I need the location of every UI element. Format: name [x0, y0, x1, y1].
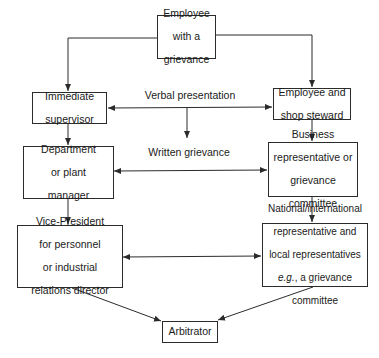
- node-text-line: National/international: [268, 203, 362, 215]
- node-text-line: or plant: [41, 167, 96, 179]
- node-text-line: supervisor: [45, 114, 94, 126]
- node-arbitrator: Arbitrator: [162, 321, 218, 343]
- node-employee-with-grievance: Employee with a grievance: [157, 15, 216, 59]
- node-text-line: e.g., a grievance: [268, 272, 362, 284]
- node-text-line: with a: [163, 31, 210, 43]
- edge-department-business: [114, 170, 267, 171]
- node-immediate-supervisor: Immediate supervisor: [32, 92, 107, 124]
- node-text-line: committee: [268, 295, 362, 307]
- label-written-grievance: Written grievance: [148, 146, 230, 158]
- node-employee-and-shop-steward: Employee and shop steward: [273, 88, 351, 120]
- node-business-representative: Business representative or grievance com…: [268, 142, 358, 197]
- node-text-line: Department: [41, 144, 96, 156]
- node-text-line: Employee and: [278, 87, 345, 99]
- node-text-line: Arbitrator: [168, 326, 211, 338]
- edge-vice-president-national: [123, 256, 261, 257]
- node-department-or-plant-manager: Department or plant manager: [23, 146, 114, 199]
- node-text-line: relations director: [31, 285, 109, 297]
- node-text-line: grievance: [163, 54, 210, 66]
- node-text-line: manager: [41, 190, 96, 202]
- node-text-line: Immediate: [45, 91, 94, 103]
- node-text-line: for personnel: [31, 239, 109, 251]
- node-text-line: Business: [274, 129, 353, 141]
- label-verbal-presentation: Verbal presentation: [145, 89, 235, 101]
- node-text-line: Employee: [163, 8, 210, 20]
- node-text-line: representative and: [268, 226, 362, 238]
- node-national-international-representative: National/international representative an…: [262, 223, 368, 287]
- node-text-line: Vice-President: [31, 216, 109, 228]
- node-text-line: local representatives: [268, 249, 362, 261]
- node-text-line: representative or: [274, 152, 353, 164]
- italic-abbreviation: e.g.: [278, 272, 295, 283]
- node-text-line: or industrial: [31, 262, 109, 274]
- node-text-line: grievance: [274, 175, 353, 187]
- edge-verbal-presentation: [108, 107, 272, 108]
- node-vice-president: Vice-President for personnel or industri…: [17, 225, 123, 288]
